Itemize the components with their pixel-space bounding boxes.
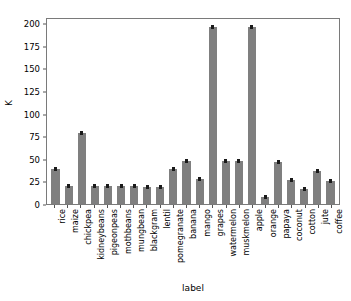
x-axis-label-slot: apple [246,209,259,279]
bar[interactable] [326,181,334,204]
x-axis-tick-mark [278,205,279,208]
x-axis-label-slot: pigeonpeas [101,209,114,279]
x-axis-label-slot: kidneybeans [88,209,101,279]
error-bar [329,179,332,183]
x-axis-tick-mark [318,205,319,208]
x-axis-tick-mark [252,205,253,208]
y-axis-tick-label: 100 [24,110,40,120]
error-bar [277,160,280,164]
bar-slot [298,19,311,204]
bar-slot [245,19,258,204]
y-axis-tick-label: 200 [24,19,40,29]
x-axis-tick-mark [54,205,55,208]
x-axis-label-slot: grapes [206,209,219,279]
bar-slot [324,19,337,204]
x-axis-tick-mark [94,205,95,208]
x-axis-tick-mark [305,205,306,208]
x-axis-tick-mark [120,205,121,208]
x-axis-label-slot: maize [61,209,74,279]
bar-slot [193,19,206,204]
bar[interactable] [222,161,230,204]
x-axis-tick-mark [291,205,292,208]
bar[interactable] [274,162,282,204]
x-axis-label-slot: orange [259,209,272,279]
bar[interactable] [51,169,59,204]
bar[interactable] [130,186,138,204]
bar[interactable] [287,180,295,204]
error-bar [211,25,214,29]
x-axis-tick-mark [133,205,134,208]
x-axis-tick-mark [331,205,332,208]
bar-slot [206,19,219,204]
x-axis-tick-mark [160,205,161,208]
x-axis-tick-mark [199,205,200,208]
bar[interactable] [143,187,151,204]
bar-slot [272,19,285,204]
bar[interactable] [313,171,321,204]
bar[interactable] [196,179,204,204]
bar-series [47,19,339,204]
x-axis-tick-mark [239,205,240,208]
error-bar [250,25,253,29]
bar-slot [141,19,154,204]
bar[interactable] [104,186,112,204]
error-bar [264,195,267,199]
bar[interactable] [78,133,86,204]
x-axis-tick-mark [67,205,68,208]
x-axis-label-slot: muskmelon [233,209,246,279]
bar-slot [88,19,101,204]
bar[interactable] [91,186,99,204]
error-bar [224,159,227,163]
error-bar [133,184,136,188]
y-axis-tick-label: 0 [35,200,40,210]
bar[interactable] [169,169,177,204]
bar[interactable] [156,187,164,204]
bar-slot [75,19,88,204]
plot-area [46,18,340,205]
x-axis-label-slot: mungbean [127,209,140,279]
bar-slot [62,19,75,204]
x-axis-label-slot: blackgram [140,209,153,279]
bar[interactable] [261,197,269,204]
x-axis-label-slot: pomegranate [167,209,180,279]
x-axis-label-slot: coffee [325,209,338,279]
bar-slot [154,19,167,204]
error-bar [54,167,57,171]
error-bar [290,178,293,182]
bar[interactable] [117,186,125,204]
error-bar [159,185,162,189]
bar[interactable] [235,161,243,204]
y-axis-ticks: 0255075100125150175200 [0,0,46,301]
error-bar [106,184,109,188]
x-axis-label-slot: mango [193,209,206,279]
bar-chart-figure: K 0255075100125150175200 ricemaizechickp… [0,0,351,301]
y-axis-tick-label: 175 [24,42,40,52]
x-axis-tick-labels: ricemaizechickpeakidneybeanspigeonpeasmo… [46,209,340,279]
bar-slot [49,19,62,204]
bar[interactable] [182,161,190,204]
bar-slot [285,19,298,204]
error-bar [172,167,175,171]
x-axis-label-slot: banana [180,209,193,279]
bar[interactable] [248,27,256,204]
x-axis-tick-mark [173,205,174,208]
bar-slot [232,19,245,204]
y-axis-tick-label: 150 [24,64,40,74]
x-axis-tick-mark [265,205,266,208]
bar-slot [128,19,141,204]
x-axis-label-slot: papaya [272,209,285,279]
error-bar [67,184,70,188]
x-axis-tick-label: coffee [335,209,344,234]
error-bar [316,169,319,173]
bar[interactable] [65,186,73,204]
error-bar [198,177,201,181]
x-axis-tick-mark [146,205,147,208]
error-bar [93,184,96,188]
error-bar [185,159,188,163]
x-axis-label-slot: jute [312,209,325,279]
bar[interactable] [209,27,217,204]
x-axis-label-slot: coconut [285,209,298,279]
bar-slot [101,19,114,204]
bar[interactable] [300,189,308,204]
error-bar [120,184,123,188]
